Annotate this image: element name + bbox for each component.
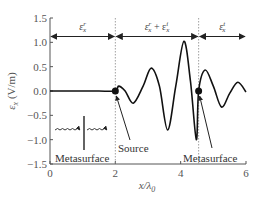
source-label: Source [118,142,149,154]
x-tick-label: 2 [113,167,119,179]
y-tick-label: −1.0 [27,134,47,146]
y-tick-label: −0.5 [27,109,47,121]
transmitted-wave-icon [87,129,107,131]
metasurface-label: Metasurface [183,152,237,164]
source-marker [112,88,119,95]
x-tick-label: 6 [243,167,249,179]
x-tick-label: 4 [178,167,184,179]
y-tick-label: −1.5 [27,158,47,170]
y-tick-label: 1.0 [33,36,47,48]
region-label: εtx [219,20,226,34]
inset-diagram [55,116,107,150]
incident-wave-icon [55,129,80,131]
y-tick-label: 0.5 [33,61,47,73]
y-tick-label: 0.0 [33,85,47,97]
region-label: εrx [79,20,87,34]
y-tick-label: 1.5 [33,12,47,24]
y-axis-label: εx (V/m) [5,72,20,110]
field-chart: 1.51.00.50.0−0.5−1.0−1.50246 εrxεrx + εi… [0,0,263,209]
series-line-ex [50,41,246,139]
x-tick-label: 0 [47,167,53,179]
region-label: εrx + εix [145,20,171,34]
metasurface-arrow [200,96,212,148]
region-arrows: εrxεrx + εixεtx [51,20,245,36]
metasurface-marker [195,88,202,95]
inset-metasurface-label: Metasurface [55,152,109,164]
source-arrow [116,96,130,140]
x-axis-label: x/λ0 [138,179,156,194]
